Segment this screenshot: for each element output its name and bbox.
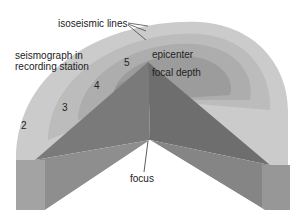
intensity-zone-4-label: 4 (94, 80, 100, 91)
intensity-zone-5-label: 5 (124, 57, 130, 68)
intensity-zone-2-label: 2 (21, 120, 27, 131)
isoseismic-lines-label: isoseismic lines (58, 18, 127, 29)
left-side-block (16, 160, 45, 210)
isoseismic-pointer-1 (128, 23, 148, 26)
intensity-zone-3-label: 3 (62, 102, 68, 113)
focus-label: focus (130, 173, 154, 184)
seismograph-label-line1: seismograph in (15, 50, 83, 61)
seismograph-label-line2: recording station (15, 61, 89, 72)
earthquake-cross-section-diagram (0, 0, 294, 218)
right-side-block (262, 165, 290, 210)
focal-depth-label: focal depth (152, 67, 201, 78)
epicenter-label: epicenter (152, 49, 193, 60)
